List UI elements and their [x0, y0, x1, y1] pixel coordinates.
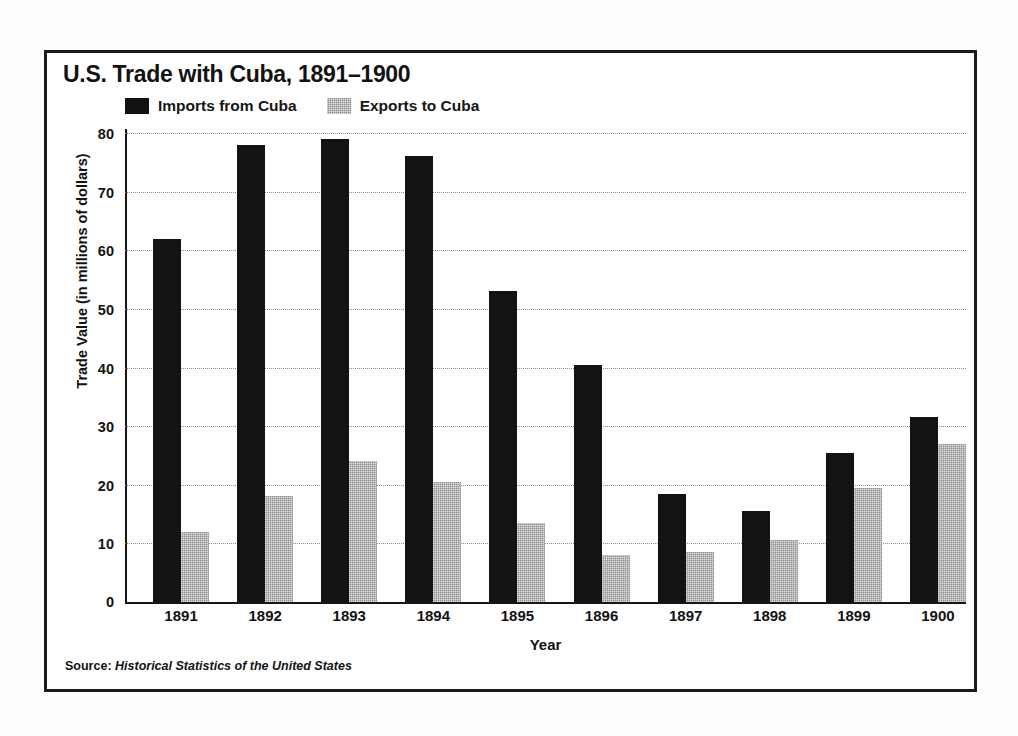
scanned-page: U.S. Trade with Cuba, 1891–1900 Imports …	[0, 0, 1018, 736]
y-tick-label-50: 50	[98, 302, 114, 318]
bar-group-1894: 1894	[405, 133, 461, 602]
x-tick-label-1893: 1893	[333, 607, 366, 624]
chart-legend: Imports from Cuba Exports to Cuba	[125, 97, 479, 115]
bar-imports-1892[interactable]	[237, 145, 265, 602]
bar-imports-1899[interactable]	[826, 453, 854, 602]
y-tick-label-10: 10	[98, 536, 114, 552]
y-tick-label-20: 20	[98, 478, 114, 494]
x-tick-label-1900: 1900	[921, 607, 954, 624]
bar-exports-1894[interactable]	[433, 482, 461, 602]
bar-exports-1898[interactable]	[770, 540, 798, 602]
y-tick-label-40: 40	[98, 361, 114, 377]
bar-exports-1896[interactable]	[602, 555, 630, 602]
legend-label-imports: Imports from Cuba	[158, 97, 297, 115]
source-title: Historical Statistics of the United Stat…	[115, 659, 352, 673]
bar-exports-1891[interactable]	[181, 532, 209, 602]
legend-item-imports: Imports from Cuba	[125, 97, 297, 115]
bar-group-1899: 1899	[826, 133, 882, 602]
legend-item-exports: Exports to Cuba	[327, 97, 480, 115]
plot-area: 01020304050607080 1891189218931894189518…	[125, 133, 966, 602]
gray-square-icon	[327, 98, 351, 114]
bar-group-1896: 1896	[574, 133, 630, 602]
bar-imports-1897[interactable]	[658, 494, 686, 602]
source-prefix: Source:	[65, 659, 112, 673]
bar-group-1891: 1891	[153, 133, 209, 602]
y-tick-label-0: 0	[106, 594, 114, 610]
chart-title: U.S. Trade with Cuba, 1891–1900	[63, 61, 410, 88]
bar-series-container: 1891189218931894189518961897189818991900	[125, 133, 966, 602]
bar-group-1892: 1892	[237, 133, 293, 602]
bar-exports-1900[interactable]	[938, 444, 966, 602]
x-axis-title: Year	[125, 636, 966, 653]
bar-group-1893: 1893	[321, 133, 377, 602]
x-tick-label-1899: 1899	[837, 607, 870, 624]
bar-exports-1897[interactable]	[686, 552, 714, 602]
bar-group-1900: 1900	[910, 133, 966, 602]
x-tick-label-1895: 1895	[501, 607, 534, 624]
bar-imports-1900[interactable]	[910, 417, 938, 602]
black-square-icon	[125, 98, 149, 114]
figure-frame: U.S. Trade with Cuba, 1891–1900 Imports …	[44, 50, 977, 692]
y-axis-title: Trade Value (in millions of dollars)	[74, 36, 90, 506]
y-tick-label-70: 70	[98, 185, 114, 201]
y-tick-label-30: 30	[98, 419, 114, 435]
x-axis-line	[125, 602, 966, 604]
x-tick-label-1894: 1894	[417, 607, 450, 624]
bar-imports-1895[interactable]	[489, 291, 517, 602]
x-tick-label-1896: 1896	[585, 607, 618, 624]
bar-group-1898: 1898	[742, 133, 798, 602]
bar-imports-1891[interactable]	[153, 239, 181, 602]
x-tick-label-1892: 1892	[248, 607, 281, 624]
bar-exports-1895[interactable]	[517, 523, 545, 602]
bar-imports-1894[interactable]	[405, 156, 433, 602]
y-tick-label-60: 60	[98, 243, 114, 259]
bar-exports-1899[interactable]	[854, 488, 882, 602]
bar-exports-1892[interactable]	[265, 496, 293, 602]
legend-label-exports: Exports to Cuba	[360, 97, 480, 115]
y-tick-label-80: 80	[98, 126, 114, 142]
bar-imports-1898[interactable]	[742, 511, 770, 602]
bar-imports-1893[interactable]	[321, 139, 349, 602]
source-note: Source: Historical Statistics of the Uni…	[65, 659, 352, 673]
x-tick-label-1898: 1898	[753, 607, 786, 624]
bar-group-1895: 1895	[489, 133, 545, 602]
x-tick-label-1897: 1897	[669, 607, 702, 624]
x-tick-label-1891: 1891	[164, 607, 197, 624]
bar-group-1897: 1897	[658, 133, 714, 602]
bar-imports-1896[interactable]	[574, 365, 602, 602]
bar-exports-1893[interactable]	[349, 461, 377, 602]
